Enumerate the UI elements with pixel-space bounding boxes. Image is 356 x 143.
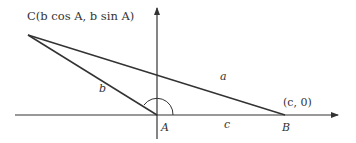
side-b (28, 35, 157, 115)
triangle-diagram: C(b cos A, b sin A) a b c A B (c, 0) (0, 0, 356, 143)
label-side-c: c (224, 118, 230, 131)
label-coord-B: (c, 0) (283, 96, 312, 109)
label-point-A: A (160, 121, 169, 134)
angle-arc-A (144, 98, 173, 115)
label-side-b: b (99, 82, 106, 95)
label-point-B: B (281, 121, 290, 134)
label-point-C: C(b cos A, b sin A) (27, 9, 134, 23)
label-side-a: a (220, 70, 227, 83)
